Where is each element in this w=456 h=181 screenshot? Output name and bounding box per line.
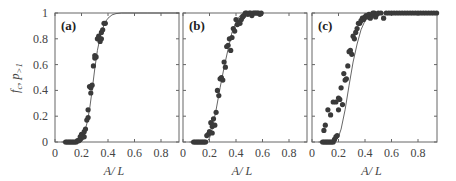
data-point bbox=[216, 93, 221, 98]
x-tick-label: 0.2 bbox=[202, 146, 217, 160]
data-point bbox=[323, 123, 328, 128]
data-point bbox=[223, 65, 228, 70]
x-tick-label: 0 bbox=[52, 146, 58, 160]
data-point bbox=[83, 127, 88, 132]
data-point bbox=[339, 85, 344, 90]
data-point bbox=[336, 107, 341, 112]
data-point bbox=[321, 128, 326, 133]
data-point bbox=[355, 26, 360, 31]
figure: 00.20.40.60.800.20.40.60.81(a)A/ L 00.20… bbox=[0, 0, 456, 181]
data-point bbox=[434, 10, 439, 15]
data-point bbox=[211, 116, 216, 121]
x-tick-label: 0.6 bbox=[255, 146, 270, 160]
x-tick-label: 0.8 bbox=[282, 146, 297, 160]
panel-a: 00.20.40.60.800.20.40.60.81(a)A/ L bbox=[33, 6, 180, 178]
data-point bbox=[381, 16, 386, 21]
data-point bbox=[103, 21, 108, 26]
x-tick-label: 0.6 bbox=[127, 146, 142, 160]
data-point bbox=[349, 52, 354, 57]
data-point bbox=[378, 10, 383, 15]
y-axis-label: fc, p>1 bbox=[8, 63, 24, 93]
data-point bbox=[82, 134, 87, 139]
x-tick-label: 0.4 bbox=[229, 146, 244, 160]
x-axis-label: A/ L bbox=[360, 164, 382, 178]
data-point bbox=[325, 107, 330, 112]
data-point bbox=[222, 59, 227, 64]
y-tick-label: 0.8 bbox=[33, 32, 48, 46]
x-tick-label: 0.8 bbox=[411, 146, 426, 160]
x-tick-label: 0.8 bbox=[154, 146, 169, 160]
data-point bbox=[340, 102, 345, 107]
data-point bbox=[336, 96, 341, 101]
data-point bbox=[100, 27, 105, 32]
x-axis-label: A/ L bbox=[103, 164, 125, 178]
data-point bbox=[226, 43, 231, 48]
data-point bbox=[91, 63, 96, 68]
panel-b: 00.20.40.60.8(b)A/ L bbox=[180, 10, 307, 178]
data-point bbox=[335, 133, 340, 138]
data-point bbox=[345, 63, 350, 68]
y-tick-label: 0.6 bbox=[33, 58, 48, 72]
panel-label: (b) bbox=[189, 18, 205, 33]
x-tick-label: 0.4 bbox=[358, 146, 373, 160]
data-point bbox=[220, 78, 225, 83]
x-axis-label: A/ L bbox=[231, 164, 253, 178]
data-point bbox=[88, 90, 93, 95]
data-point bbox=[229, 35, 234, 40]
x-tick-label: 0.4 bbox=[101, 146, 116, 160]
y-tick-label: 0 bbox=[42, 135, 48, 149]
data-point bbox=[212, 123, 217, 128]
y-tick-label: 1 bbox=[42, 6, 48, 20]
data-point bbox=[215, 88, 220, 93]
data-point bbox=[232, 29, 237, 34]
data-point bbox=[94, 54, 99, 59]
data-point bbox=[90, 83, 95, 88]
data-point bbox=[86, 107, 91, 112]
x-tick-label: 0.6 bbox=[384, 146, 399, 160]
data-point bbox=[344, 76, 349, 81]
data-point bbox=[228, 48, 233, 53]
x-tick-label: 0.2 bbox=[74, 146, 89, 160]
data-point bbox=[203, 139, 208, 144]
data-point bbox=[328, 112, 333, 117]
y-tick-label: 0.4 bbox=[33, 83, 48, 97]
panel-c: 00.20.40.60.8(c)A/ L bbox=[309, 10, 439, 178]
x-tick-label: 0.2 bbox=[331, 146, 346, 160]
data-point bbox=[214, 110, 219, 115]
data-point bbox=[352, 36, 357, 41]
panel-label: (a) bbox=[61, 18, 76, 33]
x-tick-label: 0 bbox=[180, 146, 186, 160]
data-point bbox=[259, 10, 264, 15]
data-point bbox=[341, 71, 346, 76]
panel-label: (c) bbox=[318, 18, 332, 33]
y-tick-label: 0.2 bbox=[33, 109, 48, 123]
x-tick-label: 0 bbox=[309, 146, 315, 160]
data-point bbox=[86, 115, 91, 120]
data-point bbox=[210, 130, 215, 135]
data-point bbox=[99, 36, 104, 41]
